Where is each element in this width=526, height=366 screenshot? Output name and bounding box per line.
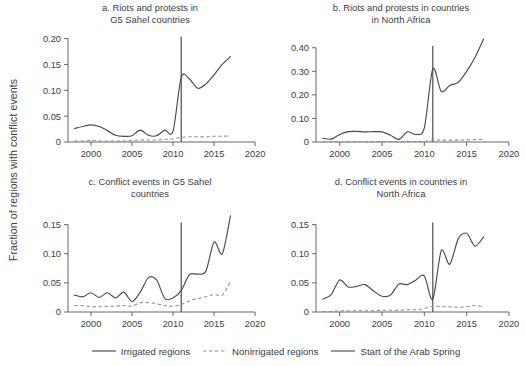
svg-text:0.15: 0.15 [43,60,61,70]
svg-text:2000: 2000 [81,149,102,159]
panel-d-title: d. Conflict events in countries in North… [278,176,524,199]
panel-b-title: b. Riots and protests in countries in No… [278,2,524,25]
panel-c-plot: 00.050.100.1520002005201020152020 [30,204,270,334]
svg-text:2005: 2005 [122,319,143,329]
panel-d-title-line1: d. Conflict events in countries in [278,176,524,188]
panel-c: c. Conflict events in G5 Sahel countries… [30,176,270,336]
svg-text:0.10: 0.10 [291,114,309,124]
panel-a-title-line1: a. Riots and protests in [30,2,270,14]
legend-arab-spring: Start of the Arab Spring [331,346,460,357]
panel-b-plot: 00.100.200.300.4020002005201020152020 [278,30,524,164]
svg-text:0.10: 0.10 [43,249,61,259]
legend-arab-spring-swatch [331,347,355,355]
svg-text:2010: 2010 [414,319,435,329]
svg-text:0.05: 0.05 [43,278,61,288]
panel-b-title-line2: in North Africa [278,14,524,26]
panel-c-title-line1: c. Conflict events in G5 Sahel [30,176,270,188]
svg-text:0.10: 0.10 [291,249,309,259]
svg-text:0.20: 0.20 [43,34,61,44]
panel-a-plot: 00.050.100.150.2020002005201020152020 [30,30,270,164]
svg-text:2020: 2020 [499,319,520,329]
svg-text:0.05: 0.05 [43,112,61,122]
panel-c-title: c. Conflict events in G5 Sahel countries [30,176,270,199]
panel-b-title-line1: b. Riots and protests in countries [278,2,524,14]
svg-text:2015: 2015 [456,319,477,329]
legend-nonirrigated-swatch [203,347,227,355]
panel-d-plot: 00.050.100.1520002005201020152020 [278,204,524,334]
svg-text:0: 0 [304,137,309,147]
legend-irrigated: Irrigated regions [92,346,190,357]
svg-text:2020: 2020 [245,149,266,159]
svg-text:0: 0 [56,307,61,317]
svg-text:2000: 2000 [329,149,350,159]
svg-text:2010: 2010 [414,149,435,159]
panel-a: a. Riots and protests in G5 Sahel countr… [30,2,270,167]
svg-text:0: 0 [56,137,61,147]
svg-text:0.30: 0.30 [291,67,309,77]
panel-a-title: a. Riots and protests in G5 Sahel countr… [30,2,270,25]
svg-text:2015: 2015 [456,149,477,159]
panel-d-title-line2: North Africa [278,188,524,200]
svg-text:2005: 2005 [372,149,393,159]
panel-b: b. Riots and protests in countries in No… [278,2,524,167]
svg-text:0: 0 [304,307,309,317]
panel-c-title-line2: countries [30,188,270,200]
svg-text:2000: 2000 [329,319,350,329]
legend-arab-spring-label: Start of the Arab Spring [360,346,460,357]
legend-nonirrigated-label: Nonirrigated regions [232,346,318,357]
svg-text:2020: 2020 [245,319,266,329]
panel-grid: a. Riots and protests in G5 Sahel countr… [26,0,526,334]
svg-text:2010: 2010 [163,149,184,159]
panel-d: d. Conflict events in countries in North… [278,176,524,336]
svg-text:0.20: 0.20 [291,90,309,100]
svg-text:0.15: 0.15 [43,220,61,230]
figure-legend: Irrigated regionsNonirrigated regionsSta… [26,336,526,366]
svg-text:2005: 2005 [122,149,143,159]
legend-nonirrigated: Nonirrigated regions [203,346,318,357]
svg-text:2020: 2020 [499,149,520,159]
figure-root: Fraction of regions with conflict events… [0,0,526,366]
y-axis-label-container: Fraction of regions with conflict events [0,0,26,340]
y-axis-label: Fraction of regions with conflict events [7,79,19,261]
svg-text:2015: 2015 [204,149,225,159]
svg-text:0.10: 0.10 [43,86,61,96]
legend-irrigated-label: Irrigated regions [121,346,190,357]
svg-text:0.05: 0.05 [291,278,309,288]
legend-irrigated-swatch [92,347,116,355]
svg-text:2015: 2015 [204,319,225,329]
panel-a-title-line2: G5 Sahel countries [30,14,270,26]
svg-text:2000: 2000 [81,319,102,329]
svg-text:2010: 2010 [163,319,184,329]
svg-text:2005: 2005 [372,319,393,329]
svg-text:0.15: 0.15 [291,220,309,230]
svg-text:0.40: 0.40 [291,43,309,53]
